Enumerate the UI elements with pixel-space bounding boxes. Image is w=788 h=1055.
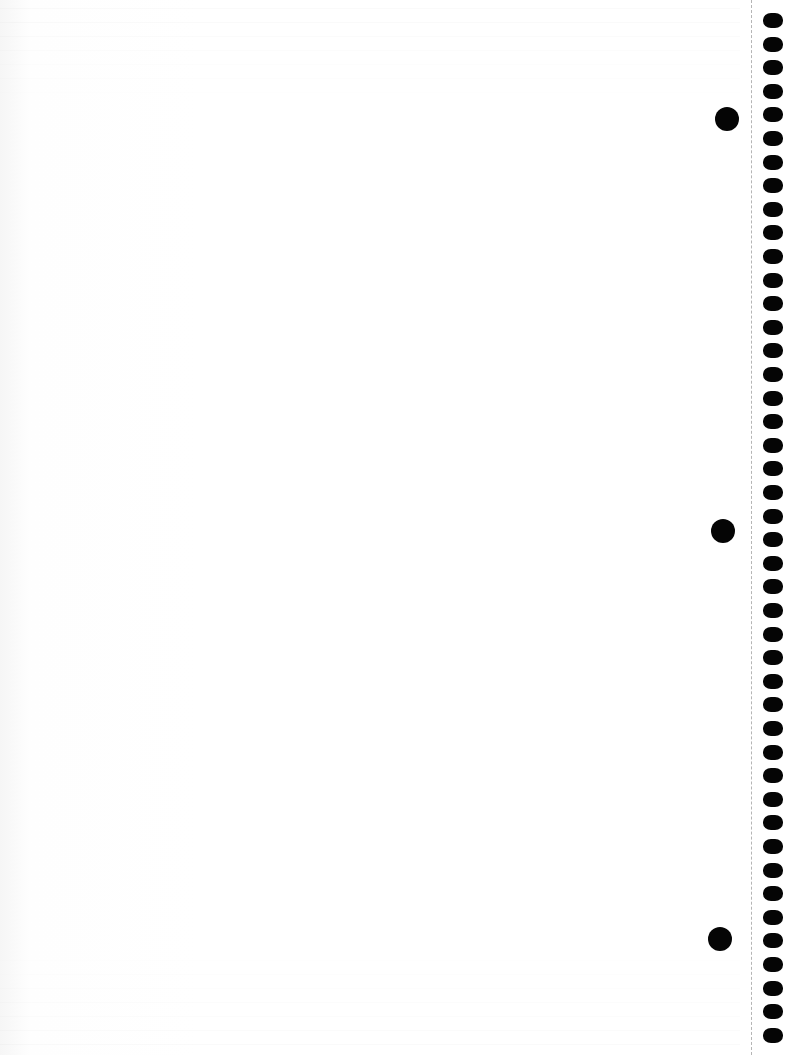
spiral-hole bbox=[763, 60, 783, 75]
spiral-hole bbox=[763, 603, 783, 618]
spiral-hole bbox=[763, 815, 783, 830]
spiral-hole bbox=[763, 485, 783, 500]
spiral-hole bbox=[763, 910, 783, 925]
spiral-hole bbox=[763, 509, 783, 524]
spiral-hole bbox=[763, 225, 783, 240]
spiral-hole bbox=[763, 839, 783, 854]
spiral-hole bbox=[763, 461, 783, 476]
spiral-hole bbox=[763, 84, 783, 99]
spiral-hole bbox=[763, 768, 783, 783]
spiral-hole bbox=[763, 886, 783, 901]
spiral-hole bbox=[763, 957, 783, 972]
spiral-hole bbox=[763, 438, 783, 453]
spiral-hole bbox=[763, 933, 783, 948]
punch-hole bbox=[708, 927, 732, 951]
spiral-hole bbox=[763, 627, 783, 642]
punch-hole bbox=[711, 519, 735, 543]
punch-hole bbox=[715, 107, 739, 131]
spiral-hole bbox=[763, 178, 783, 193]
spiral-hole bbox=[763, 249, 783, 264]
spiral-hole bbox=[763, 1028, 783, 1043]
perforation-line bbox=[751, 0, 752, 1055]
spiral-hole bbox=[763, 532, 783, 547]
spiral-hole bbox=[763, 863, 783, 878]
spiral-hole bbox=[763, 37, 783, 52]
spiral-hole bbox=[763, 273, 783, 288]
notebook-page bbox=[0, 0, 788, 1055]
spiral-hole bbox=[763, 343, 783, 358]
spiral-hole bbox=[763, 697, 783, 712]
spiral-hole bbox=[763, 674, 783, 689]
spiral-hole bbox=[763, 745, 783, 760]
spiral-hole bbox=[763, 414, 783, 429]
spiral-hole bbox=[763, 391, 783, 406]
spiral-hole bbox=[763, 202, 783, 217]
spiral-hole bbox=[763, 296, 783, 311]
spiral-hole bbox=[763, 107, 783, 122]
spiral-hole bbox=[763, 155, 783, 170]
spiral-hole bbox=[763, 1004, 783, 1019]
spiral-hole bbox=[763, 721, 783, 736]
spiral-hole bbox=[763, 981, 783, 996]
spiral-hole bbox=[763, 579, 783, 594]
bleed-through-text bbox=[0, 0, 740, 1055]
spiral-hole bbox=[763, 650, 783, 665]
spiral-hole bbox=[763, 556, 783, 571]
spiral-hole bbox=[763, 13, 783, 28]
spiral-hole bbox=[763, 131, 783, 146]
spiral-hole bbox=[763, 320, 783, 335]
spiral-hole bbox=[763, 792, 783, 807]
spiral-hole bbox=[763, 367, 783, 382]
